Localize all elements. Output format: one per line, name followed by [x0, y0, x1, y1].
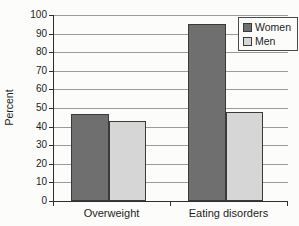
y-tick-mark-20 [49, 164, 53, 165]
gridline-50 [54, 108, 288, 109]
x-category-label-eating-disorders: Eating disorders [170, 207, 287, 220]
y-tick-mark-30 [49, 145, 53, 146]
y-tick-label-100: 100 [21, 9, 47, 21]
x-tick-mark-0 [53, 202, 54, 206]
y-tick-label-90: 90 [21, 28, 47, 40]
y-tick-label-70: 70 [21, 65, 47, 77]
gridline-80 [54, 52, 288, 53]
y-tick-label-0: 0 [21, 195, 47, 207]
y-tick-label-60: 60 [21, 83, 47, 95]
y-tick-mark-90 [49, 34, 53, 35]
legend-item-men: Men [243, 35, 291, 47]
y-tick-label-30: 30 [21, 139, 47, 151]
gridline-100 [54, 15, 288, 16]
legend: WomenMen [238, 17, 298, 51]
legend-label-men: Men [255, 35, 275, 47]
y-tick-mark-60 [49, 89, 53, 90]
y-tick-label-20: 20 [21, 158, 47, 170]
x-tick-mark-1 [170, 202, 171, 206]
y-tick-mark-40 [49, 127, 53, 128]
bar-women-eating-disorders [188, 24, 226, 201]
bar-women-overweight [71, 114, 109, 201]
y-axis-title: Percent [3, 78, 16, 138]
gridline-70 [54, 71, 288, 72]
legend-swatch-women-icon [243, 23, 252, 32]
x-tick-mark-2 [287, 202, 288, 206]
y-tick-label-50: 50 [21, 102, 47, 114]
y-tick-label-10: 10 [21, 176, 47, 188]
legend-label-women: Women [255, 21, 291, 33]
y-tick-mark-10 [49, 182, 53, 183]
legend-item-women: Women [243, 21, 291, 33]
legend-swatch-men-icon [243, 37, 252, 46]
x-category-label-overweight: Overweight [53, 207, 170, 220]
y-tick-mark-80 [49, 52, 53, 53]
y-tick-label-80: 80 [21, 46, 47, 58]
y-tick-mark-70 [49, 71, 53, 72]
bar-chart-figure: Percent WomenMen 0102030405060708090100O… [0, 0, 299, 226]
gridline-60 [54, 89, 288, 90]
y-tick-mark-100 [49, 15, 53, 16]
bar-men-eating-disorders [226, 112, 263, 201]
y-tick-label-40: 40 [21, 121, 47, 133]
y-tick-mark-50 [49, 108, 53, 109]
bar-men-overweight [109, 121, 146, 201]
